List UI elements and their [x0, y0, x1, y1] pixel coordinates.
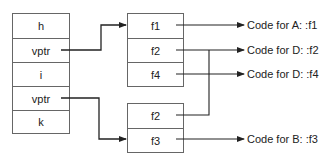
vptr1-arrow: [61, 25, 126, 50]
target-d-f4: Code for D: :f4: [247, 68, 319, 80]
vtable2-f2-connector: [176, 50, 209, 115]
vptr2-arrow: [61, 98, 126, 139]
target-d-f2: Code for D: :f2: [247, 44, 319, 56]
target-b-f3: Code for B: :f3: [247, 133, 318, 145]
target-a-f1: Code for A: :f1: [247, 19, 317, 31]
